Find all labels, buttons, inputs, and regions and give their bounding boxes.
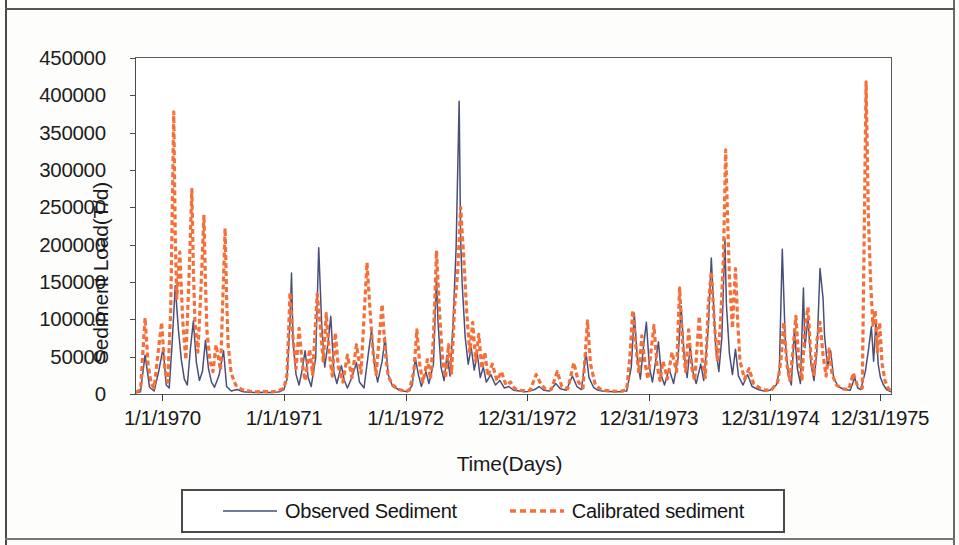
x-tick-mark [770,394,771,401]
figure-border-top [5,8,955,10]
x-tick-label: 12/31/1975 [830,406,929,430]
x-tick-mark [162,394,163,401]
x-tick-label: 1/1/1971 [246,406,323,430]
x-tick-label: 12/31/1972 [478,406,577,430]
legend-entry[interactable]: Calibrated sediment [509,500,744,523]
solid-line-icon [222,504,278,518]
x-tick-label: 12/31/1973 [599,406,698,430]
chart-figure: Sediment Load(T/d) 450000400000350000300… [0,0,959,545]
legend-label: Observed Sediment [285,500,457,523]
y-tick-label: 50000 [50,345,106,369]
x-tick-mark [649,394,650,401]
series-line-calibrated [136,82,891,393]
legend-entry[interactable]: Observed Sediment [222,500,457,523]
dashed-line-icon [509,504,565,518]
y-tick-label: 150000 [39,270,106,294]
y-tick-label: 200000 [39,233,106,257]
x-tick-mark [880,394,881,401]
x-tick-mark [284,394,285,401]
x-tick-label: 1/1/1972 [367,406,444,430]
x-axis-title: Time(Days) [0,452,959,476]
x-tick-mark [406,394,407,401]
y-tick-label: 100000 [39,307,106,331]
x-tick-label: 12/31/1974 [721,406,820,430]
x-tick-mark [527,394,528,401]
y-tick-label: 300000 [39,158,106,182]
plot-area: 4500004000003500003000002500002000001500… [135,57,892,395]
series-line-observed [136,101,891,393]
y-tick-label: 450000 [39,46,106,70]
y-tick-mark [130,394,136,395]
y-tick-label: 250000 [39,195,106,219]
y-tick-label: 400000 [39,83,106,107]
chart-legend: Observed SedimentCalibrated sediment [181,489,785,533]
legend-label: Calibrated sediment [572,500,744,523]
series-canvas [136,58,891,394]
x-tick-label: 1/1/1970 [124,406,201,430]
y-tick-label: 350000 [39,121,106,145]
y-tick-label: 0 [95,382,106,406]
figure-border-bottom [5,538,955,540]
